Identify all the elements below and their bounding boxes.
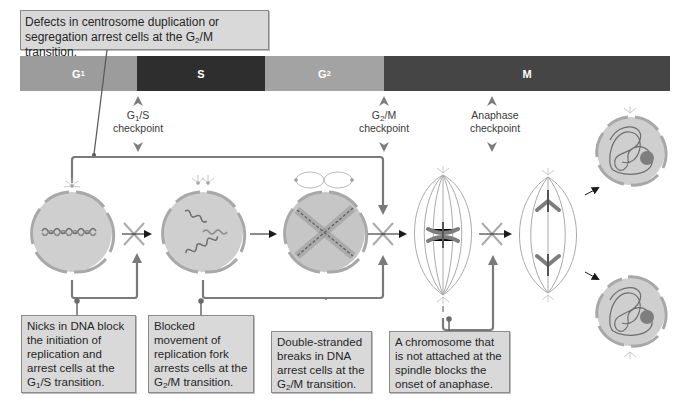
- daughter-cell-top: [597, 106, 666, 185]
- callout-leader-top: [92, 50, 107, 157]
- centrosome-pair-icon: [192, 175, 214, 185]
- cell-g1: [32, 178, 114, 272]
- centrosome-icon: [64, 178, 80, 188]
- callout-double-strand-breaks: Double-stranded breaks in DNA arrest cel…: [271, 331, 372, 393]
- callout-dna-nicks: Nicks in DNA block the initiation of rep…: [21, 315, 136, 393]
- cell-g2: [285, 172, 367, 272]
- cell-s-phase: [163, 175, 245, 272]
- callout-replication-fork: Blocked movement of replication fork arr…: [148, 315, 254, 393]
- checkpoint-arrows: [133, 96, 497, 152]
- callout-unattached-chromosome: A chromosome that is not attached at the…: [389, 331, 510, 393]
- daughter-cell-bottom: [597, 277, 666, 359]
- centrosome-asters-icon: [295, 172, 354, 188]
